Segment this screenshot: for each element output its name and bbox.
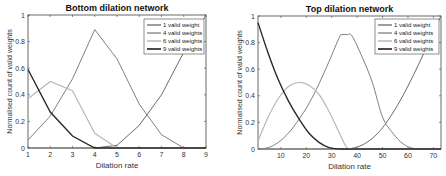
x-tick-label: 10 <box>277 152 285 159</box>
x-tick-label: 40 <box>353 152 361 159</box>
x-tick-label: 70 <box>429 152 437 159</box>
legend-entry: 6 valid weights <box>394 38 433 44</box>
chart-bottom-dilation: Bottom dilation network00.20.40.60.81123… <box>6 3 208 170</box>
y-tick-label: 0.2 <box>245 119 255 126</box>
legend: 1 valid weight4 valid weights6 valid wei… <box>375 19 439 54</box>
y-tick-label: 0.4 <box>15 91 25 98</box>
y-tick-label: 0.4 <box>245 92 255 99</box>
x-tick-label: 6 <box>137 151 141 158</box>
legend-entry: 1 valid weight <box>163 22 200 28</box>
y-tick-label: 0.2 <box>15 118 25 125</box>
chart-title: Bottom dilation network <box>66 3 170 13</box>
x-axis-label: Dilation rate <box>328 162 371 171</box>
y-tick-label: 0.8 <box>245 39 255 46</box>
x-tick-label: 5 <box>115 151 119 158</box>
legend-entry: 1 valid weight <box>394 22 431 28</box>
chart-title: Top dilation network <box>306 4 394 14</box>
x-tick-label: 30 <box>328 152 336 159</box>
legend-entry: 4 valid weights <box>394 30 433 36</box>
y-tick-label: 0.6 <box>15 65 25 72</box>
x-tick-label: 20 <box>302 152 310 159</box>
x-tick-label: 7 <box>160 151 164 158</box>
figure: Bottom dilation network00.20.40.60.81123… <box>0 0 446 176</box>
y-tick-label: 0 <box>21 145 25 152</box>
legend-entry: 4 valid weights <box>163 30 202 36</box>
x-tick-label: 60 <box>404 152 412 159</box>
y-tick-label: 0.6 <box>245 66 255 73</box>
y-tick-label: 0 <box>251 146 255 153</box>
legend-entry: 9 valid weights <box>163 46 202 52</box>
y-tick-label: 1 <box>21 12 25 19</box>
x-tick-label: 50 <box>379 152 387 159</box>
x-tick-label: 2 <box>48 151 52 158</box>
chart-top-dilation: Top dilation network00.20.40.60.81102030… <box>236 4 441 171</box>
x-tick-label: 3 <box>71 151 75 158</box>
x-tick-label: 8 <box>182 151 186 158</box>
legend-entry: 6 valid weights <box>163 38 202 44</box>
x-tick-label: 9 <box>204 151 208 158</box>
x-tick-label: 4 <box>93 151 97 158</box>
x-tick-label: 1 <box>26 151 30 158</box>
legend: 1 valid weight4 valid weights6 valid wei… <box>144 19 204 54</box>
x-axis-label: Dilation rate <box>96 161 139 170</box>
y-axis-label: Normalised count of valid weights <box>6 29 14 134</box>
legend-entry: 9 valid weights <box>394 46 433 52</box>
y-tick-label: 0.8 <box>15 38 25 45</box>
y-axis-label: Normalised count of valid weights <box>236 30 244 135</box>
y-tick-label: 1 <box>251 13 255 20</box>
